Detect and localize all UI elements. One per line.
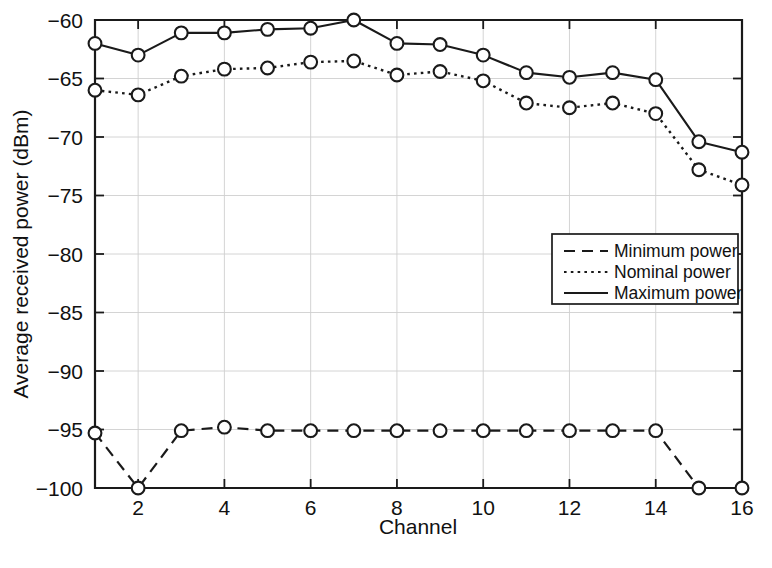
y-tick-label: −100 (36, 477, 83, 500)
data-point-marker (132, 49, 145, 62)
y-tick-label: −90 (47, 360, 83, 383)
y-tick-label: −95 (47, 418, 83, 441)
legend-label[interactable]: Nominal power (614, 262, 731, 282)
data-point-marker (304, 22, 317, 35)
data-point-marker (434, 424, 447, 437)
data-point-marker (304, 424, 317, 437)
data-point-marker (347, 424, 360, 437)
average-received-power-chart: −60−65−70−75−80−85−90−95−100 24681012141… (0, 0, 772, 568)
data-point-marker (649, 107, 662, 120)
data-point-marker (218, 421, 231, 434)
data-point-marker (736, 179, 749, 192)
data-point-marker (606, 66, 619, 79)
data-point-marker (347, 14, 360, 27)
data-point-marker (89, 37, 102, 50)
y-tick-label: −75 (47, 184, 83, 207)
x-tick-label: 6 (305, 496, 317, 519)
data-point-marker (391, 424, 404, 437)
x-tick-label: 14 (644, 496, 668, 519)
data-point-marker (261, 424, 274, 437)
y-tick-label: −85 (47, 301, 83, 324)
data-point-marker (520, 424, 533, 437)
y-tick-label: −65 (47, 67, 83, 90)
page-caption-partial (0, 552, 772, 568)
data-point-marker (175, 70, 188, 83)
data-point-marker (261, 62, 274, 75)
legend-label[interactable]: Maximum power (614, 283, 743, 303)
data-point-marker (736, 482, 749, 495)
legend-label[interactable]: Minimum power (614, 241, 738, 261)
data-point-marker (218, 63, 231, 76)
data-point-marker (132, 482, 145, 495)
data-point-marker (434, 65, 447, 78)
y-axis-title: Average received power (dBm) (9, 109, 32, 398)
x-tick-label: 2 (132, 496, 144, 519)
data-point-marker (175, 26, 188, 39)
data-point-marker (477, 49, 490, 62)
data-point-marker (692, 135, 705, 148)
figure-container: −60−65−70−75−80−85−90−95−100 24681012141… (0, 0, 772, 568)
data-point-marker (606, 97, 619, 110)
data-point-marker (692, 482, 705, 495)
y-tick-label: −60 (47, 9, 83, 32)
x-tick-label: 4 (219, 496, 231, 519)
data-point-marker (391, 69, 404, 82)
data-point-marker (218, 26, 231, 39)
data-point-marker (391, 37, 404, 50)
data-point-marker (563, 424, 576, 437)
chart-legend[interactable]: Minimum powerNominal powerMaximum power (552, 234, 743, 304)
series-line-maximum-power (95, 20, 742, 152)
data-point-marker (261, 23, 274, 36)
x-axis-title: Channel (379, 515, 457, 538)
x-tick-label: 12 (558, 496, 581, 519)
data-point-marker (649, 424, 662, 437)
data-point-marker (477, 74, 490, 87)
data-point-marker (434, 38, 447, 51)
data-point-marker (736, 146, 749, 159)
x-tick-label: 16 (730, 496, 753, 519)
data-point-marker (520, 97, 533, 110)
data-point-marker (89, 427, 102, 440)
data-point-marker (649, 73, 662, 86)
x-tick-label: 10 (472, 496, 495, 519)
data-point-marker (304, 56, 317, 69)
data-point-marker (347, 55, 360, 68)
data-point-marker (520, 66, 533, 79)
series-line-minimum-power (95, 427, 742, 488)
data-point-marker (606, 424, 619, 437)
y-tick-label: −70 (47, 126, 83, 149)
data-point-marker (563, 71, 576, 84)
data-point-marker (132, 88, 145, 101)
data-point-marker (89, 84, 102, 97)
y-tick-label: −80 (47, 243, 83, 266)
data-point-marker (477, 424, 490, 437)
series-line-nominal-power (95, 61, 742, 185)
data-point-marker (692, 163, 705, 176)
data-point-marker (175, 424, 188, 437)
data-point-marker (563, 101, 576, 114)
